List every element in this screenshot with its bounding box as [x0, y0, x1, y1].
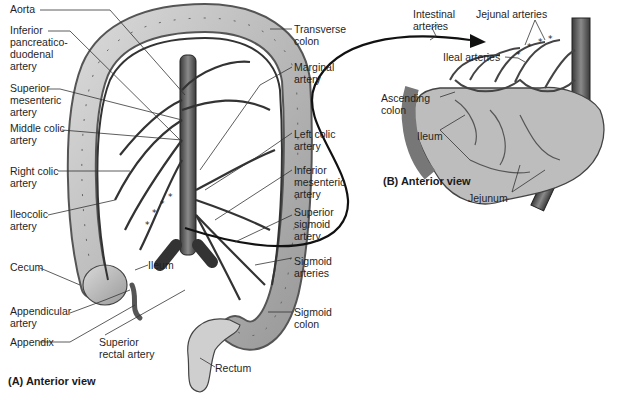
label-aorta: Aorta	[10, 3, 35, 15]
svg-text:*: *	[160, 199, 165, 209]
label-appendicular-artery: Appendicular artery	[10, 305, 71, 329]
label-appendix: Appendix	[10, 336, 54, 348]
svg-text:*: *	[145, 220, 150, 230]
label-sigmoid-arteries: Sigmoid arteries	[294, 255, 332, 279]
label-transverse-colon: Transverse colon	[294, 23, 346, 47]
label-intestinal-arteries: Intestinal arteries	[413, 8, 455, 32]
label-marginal-artery: Marginal artery	[294, 61, 334, 85]
svg-text:*: *	[168, 192, 173, 202]
label-ileal-arteries: Ileal arteries	[443, 51, 500, 63]
label-jejunal-arteries: Jejunal arteries	[476, 8, 547, 20]
label-superior-mesenteric-artery: Superior mesenteric artery	[10, 82, 61, 118]
label-superior-rectal-artery: Superior rectal artery	[99, 336, 154, 360]
label-ileocolic-artery: Ileocolic artery	[10, 208, 48, 232]
label-right-colic-artery: Right colic artery	[10, 165, 58, 189]
label-left-colic-artery: Left colic artery	[294, 128, 335, 152]
svg-text:*: *	[152, 208, 157, 218]
label-ascending-colon: Ascending colon	[381, 92, 430, 116]
label-sigmoid-colon: Sigmoid colon	[294, 306, 332, 330]
label-rectum: Rectum	[215, 362, 251, 374]
svg-text:*: *	[548, 34, 553, 44]
svg-text:*: *	[527, 42, 532, 52]
label-middle-colic-artery: Middle colic artery	[10, 122, 65, 146]
caption-panel-a: (A) Anterior view	[8, 375, 96, 387]
label-jejunum: Jejunum	[468, 192, 508, 204]
svg-text:*: *	[538, 37, 543, 47]
anatomy-illustration: ** ** ** **	[0, 0, 635, 400]
label-superior-sigmoid-artery: Superior sigmoid artery	[294, 206, 334, 242]
caption-panel-b: (B) Anterior view	[383, 175, 471, 187]
asterisks: ** **	[145, 192, 173, 230]
label-ileum-b: Ileum	[417, 130, 443, 142]
label-cecum: Cecum	[10, 261, 43, 273]
label-ileum-a: Ileum	[148, 259, 174, 271]
label-inferior-mesenteric-artery: Inferior mesenteric artery	[294, 164, 345, 200]
label-inferior-pancreaticoduodenal-artery: Inferior pancreatico- duodenal artery	[10, 24, 68, 72]
